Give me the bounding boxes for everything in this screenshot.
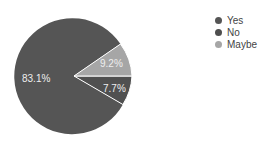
- legend-label: Maybe: [227, 39, 257, 50]
- legend-item-no[interactable]: No: [215, 26, 257, 38]
- legend-item-yes[interactable]: Yes: [215, 14, 257, 26]
- legend: Yes No Maybe: [215, 14, 257, 50]
- swatch-maybe: [215, 41, 222, 48]
- legend-label: Yes: [227, 15, 243, 26]
- label-maybe: 9.2%: [100, 58, 123, 69]
- label-yes: 83.1%: [22, 73, 50, 84]
- legend-item-maybe[interactable]: Maybe: [215, 38, 257, 50]
- label-no: 7.7%: [103, 83, 126, 94]
- swatch-no: [215, 29, 222, 36]
- swatch-yes: [215, 17, 222, 24]
- legend-label: No: [227, 27, 240, 38]
